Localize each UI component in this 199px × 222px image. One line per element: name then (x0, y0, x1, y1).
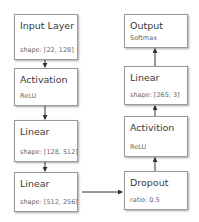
node-title: Activation (20, 74, 68, 85)
node-subtitle: ratio: 0.5 (130, 196, 160, 204)
node-subtitle: shape: [265, 3] (130, 91, 180, 99)
node-subtitle: shape: [22, 128] (20, 46, 74, 54)
node-title: Linear (20, 126, 50, 137)
node-subtitle: ReLU (20, 92, 36, 100)
node-title: Output (130, 20, 163, 31)
node-linear-3[interactable]: Linear shape: [265, 3] (124, 66, 188, 105)
node-title: Input Layer (20, 20, 74, 31)
node-linear-2[interactable]: Linear shape: [512, 256] (14, 172, 78, 212)
node-subtitle: shape: [128, 512] (20, 148, 78, 156)
node-title: Linear (130, 72, 160, 83)
node-activation[interactable]: Activation ReLU (14, 68, 78, 106)
node-title: Linear (20, 178, 50, 189)
node-input-layer[interactable]: Input Layer shape: [22, 128] (14, 14, 78, 60)
node-activition[interactable]: Activition ReLU (124, 116, 188, 157)
node-subtitle: ReLU (130, 143, 146, 151)
node-subtitle: Softmax (130, 34, 157, 42)
node-subtitle: shape: [512, 256] (20, 198, 78, 206)
node-dropout[interactable]: Dropout ratio: 0.5 (124, 171, 188, 210)
node-linear-1[interactable]: Linear shape: [128, 512] (14, 120, 78, 162)
node-output[interactable]: Output Softmax (124, 14, 188, 48)
node-title: Dropout (130, 177, 168, 188)
node-title: Activition (130, 122, 174, 133)
